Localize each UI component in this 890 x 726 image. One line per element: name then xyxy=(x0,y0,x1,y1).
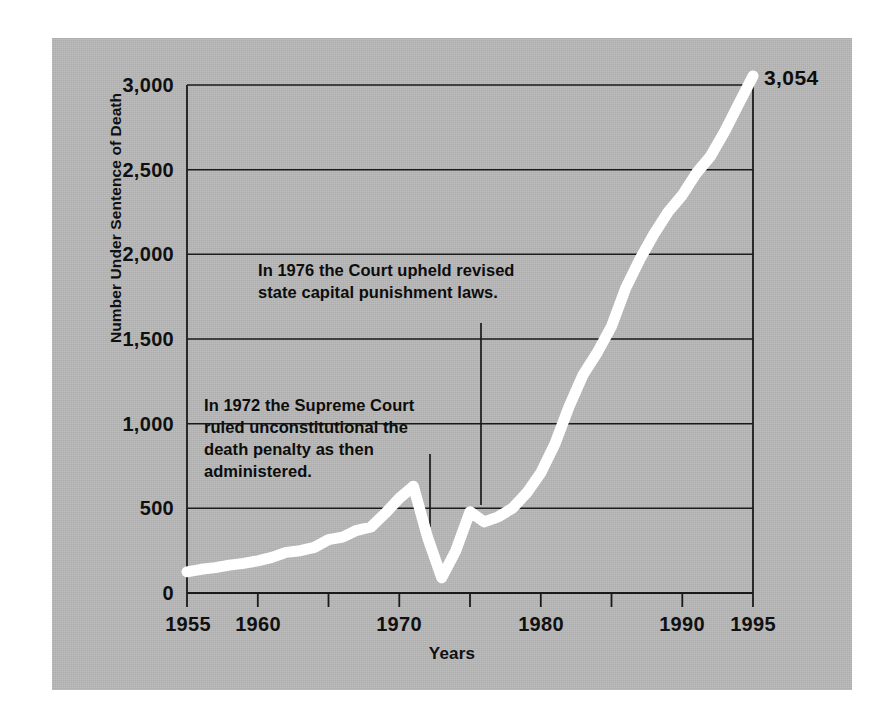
x-axis-ticks xyxy=(187,593,753,607)
endpoint-value-label: 3,054 xyxy=(764,66,819,90)
x-tick-label-1955: 1955 xyxy=(165,614,211,634)
y-tick-label-0: 0 xyxy=(74,583,174,603)
x-tick-label-1980: 1980 xyxy=(518,614,564,634)
annotation-1976-ruling: In 1976 the Court upheld revised state c… xyxy=(258,260,515,304)
y-tick-label-1000: 1,000 xyxy=(74,414,174,434)
x-tick-label-1960: 1960 xyxy=(235,614,281,634)
data-line-number-under-sentence-of-death xyxy=(187,76,753,578)
x-axis-title: Years xyxy=(52,644,852,664)
y-tick-label-500: 500 xyxy=(74,498,174,518)
y-tick-label-3000: 3,000 xyxy=(74,75,174,95)
chart-panel: 3,000 2,500 2,000 1,500 1,000 500 0 1955… xyxy=(52,38,852,690)
annotation-1972-ruling: In 1972 the Supreme Court ruled unconsti… xyxy=(204,395,414,483)
annotation-leader-lines xyxy=(430,323,481,527)
figure-root: 3,000 2,500 2,000 1,500 1,000 500 0 1955… xyxy=(0,0,890,726)
x-tick-label-1990: 1990 xyxy=(659,614,705,634)
y-axis-title: Number Under Sentence of Death xyxy=(107,103,125,343)
x-tick-label-1995: 1995 xyxy=(730,614,776,634)
x-tick-label-1970: 1970 xyxy=(376,614,422,634)
